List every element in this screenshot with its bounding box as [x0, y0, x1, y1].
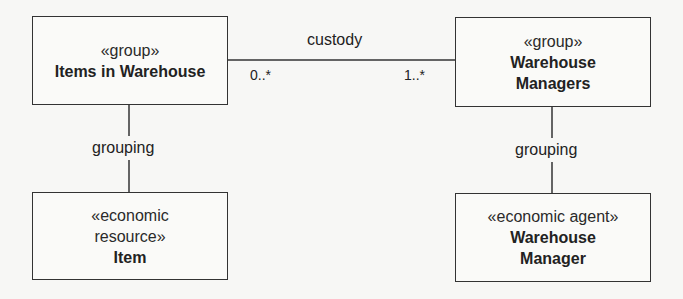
class-box-warehouse-managers[interactable]: «group» Warehouse Managers	[455, 17, 651, 107]
custody-association-label: custody	[307, 31, 362, 49]
class-name: Item	[114, 247, 147, 268]
class-name-line-2: Managers	[516, 73, 591, 94]
class-box-item[interactable]: «economic resource» Item	[32, 192, 228, 280]
right-grouping-label: grouping	[515, 141, 577, 159]
custody-from-multiplicity: 0..*	[250, 67, 271, 83]
uml-diagram-canvas: «group» Items in Warehouse «group» Wareh…	[0, 0, 683, 299]
stereotype-line-2: resource»	[94, 226, 165, 247]
left-grouping-label: grouping	[92, 139, 154, 157]
class-name-line-1: Warehouse	[510, 227, 596, 248]
stereotype-line-1: «economic	[91, 205, 168, 226]
custody-to-multiplicity: 1..*	[404, 67, 425, 83]
class-name-line-2: Manager	[520, 248, 586, 269]
stereotype-label: «group»	[101, 40, 160, 61]
class-name: Items in Warehouse	[55, 61, 206, 82]
stereotype-label: «economic agent»	[488, 206, 619, 227]
stereotype-label: «group»	[524, 31, 583, 52]
class-name-line-1: Warehouse	[510, 52, 596, 73]
class-box-items-in-warehouse[interactable]: «group» Items in Warehouse	[32, 16, 228, 105]
class-box-warehouse-manager[interactable]: «economic agent» Warehouse Manager	[455, 193, 651, 282]
